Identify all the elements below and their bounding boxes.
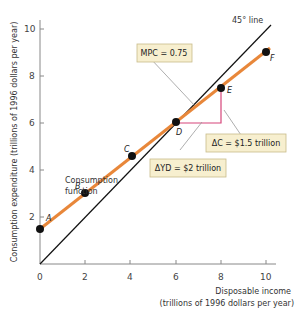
point-a-label: A bbox=[45, 214, 51, 223]
consumption-function-label-2: function bbox=[65, 187, 98, 196]
x-tick-10: 10 bbox=[260, 272, 272, 282]
point-f bbox=[262, 48, 270, 56]
dc-leader bbox=[224, 110, 241, 135]
point-a bbox=[36, 225, 44, 233]
y-tick-6: 6 bbox=[29, 118, 35, 128]
x-tick-6: 6 bbox=[173, 272, 179, 282]
consumption-function-chart: 0 2 4 6 8 10 2 4 6 8 10 Consumption expe… bbox=[0, 0, 299, 318]
x-axis-units: (trillions of 1996 dollars per year) bbox=[160, 299, 294, 308]
y-axis-label: Consumption expenditure (trillions of 19… bbox=[10, 22, 19, 263]
point-e bbox=[217, 84, 225, 92]
point-d-label: D bbox=[176, 128, 182, 137]
line-45-label: 45° line bbox=[232, 16, 263, 25]
x-tick-0: 0 bbox=[37, 272, 43, 282]
consumption-function-label-1: Consumption bbox=[65, 176, 118, 185]
mpc-leader bbox=[150, 58, 196, 107]
point-d bbox=[172, 118, 180, 126]
dyd-leader bbox=[180, 122, 202, 150]
y-tick-10: 10 bbox=[24, 24, 36, 34]
point-e-label: E bbox=[227, 86, 233, 95]
x-tick-8: 8 bbox=[218, 272, 224, 282]
point-f-label: F bbox=[270, 54, 275, 63]
delta-c-label: ΔC = $1.5 trillion bbox=[212, 139, 280, 148]
y-tick-4: 4 bbox=[29, 165, 35, 175]
point-c-label: C bbox=[124, 145, 130, 154]
x-tick-4: 4 bbox=[127, 272, 133, 282]
mpc-label: MPC = 0.75 bbox=[141, 49, 188, 58]
y-ticks: 2 4 6 8 10 bbox=[24, 24, 44, 222]
y-tick-2: 2 bbox=[29, 212, 35, 222]
y-tick-8: 8 bbox=[29, 71, 35, 81]
x-axis-label: Disposable income bbox=[215, 287, 291, 296]
x-tick-2: 2 bbox=[82, 272, 88, 282]
delta-yd-label: ΔYD = $2 trillion bbox=[155, 164, 221, 173]
x-ticks: 0 2 4 6 8 10 bbox=[37, 260, 272, 282]
